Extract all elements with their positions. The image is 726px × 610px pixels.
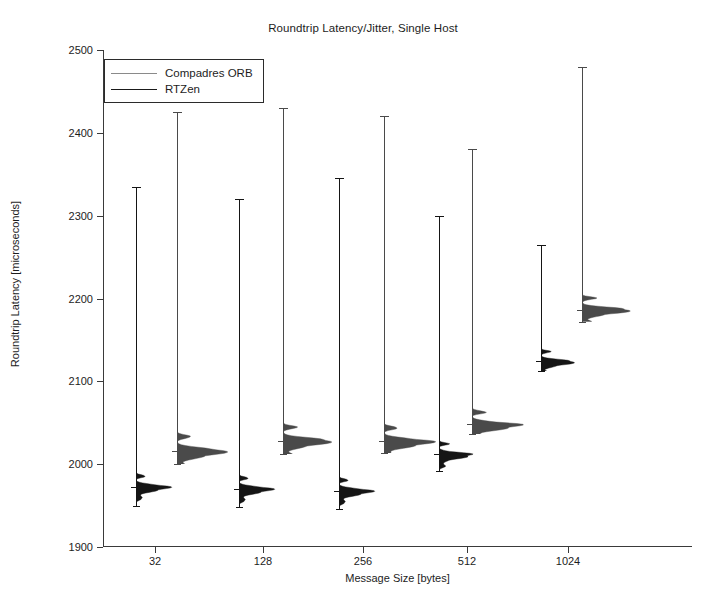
y-tick-label: 2000 — [33, 458, 93, 470]
y-tick-mark — [97, 299, 103, 300]
legend-item-compadres: Compadres ORB — [111, 65, 256, 81]
legend-swatch-compadres-icon — [111, 73, 157, 74]
y-tick-mark — [97, 464, 103, 465]
y-tick-label: 2400 — [33, 127, 93, 139]
violin-compadres-1024 — [104, 50, 692, 546]
y-tick-mark — [97, 216, 103, 217]
y-tick-label: 1900 — [33, 541, 93, 553]
legend-item-rtzen: RTZen — [111, 81, 256, 97]
legend-swatch-rtzen-icon — [111, 89, 157, 90]
legend: Compadres ORB RTZen — [104, 59, 264, 103]
y-tick-label: 2300 — [33, 210, 93, 222]
legend-label-rtzen: RTZen — [165, 83, 200, 95]
x-tick-mark — [155, 547, 156, 553]
y-tick-label: 2500 — [33, 44, 93, 56]
violin-whisker-cap-low — [579, 322, 586, 323]
chart-title: Roundtrip Latency/Jitter, Single Host — [0, 22, 726, 34]
x-tick-label: 128 — [254, 555, 272, 567]
plot-inner — [104, 50, 692, 546]
violin-median-marker — [577, 310, 587, 311]
x-tick-label: 1024 — [556, 555, 580, 567]
violin-density-body — [582, 280, 652, 321]
y-tick-mark — [97, 50, 103, 51]
x-tick-label: 256 — [354, 555, 372, 567]
y-tick-label: 2200 — [33, 293, 93, 305]
x-tick-mark — [568, 547, 569, 553]
y-tick-mark — [97, 547, 103, 548]
y-tick-mark — [97, 381, 103, 382]
x-tick-label: 512 — [458, 555, 476, 567]
x-tick-mark — [467, 547, 468, 553]
x-tick-mark — [263, 547, 264, 553]
y-tick-mark — [97, 133, 103, 134]
x-tick-mark — [363, 547, 364, 553]
y-tick-label: 2100 — [33, 375, 93, 387]
violin-whisker-cap — [578, 67, 587, 68]
x-axis-label: Message Size [bytes] — [103, 572, 692, 584]
legend-label-compadres: Compadres ORB — [165, 67, 253, 79]
x-tick-label: 32 — [149, 555, 161, 567]
figure-container: Roundtrip Latency/Jitter, Single Host Ro… — [0, 0, 726, 610]
plot-area — [103, 50, 692, 547]
y-axis-label: Roundtrip Latency [microseconds] — [9, 4, 21, 564]
